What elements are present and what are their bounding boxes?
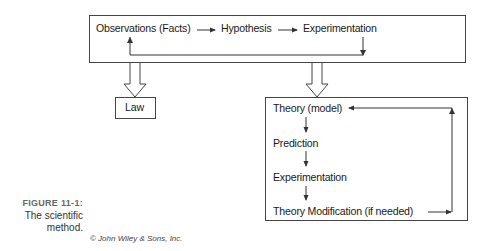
label-theory-modification: Theory Modification (if needed) [273,205,413,217]
label-experimentation-top: Experimentation [303,22,377,34]
hollow-arrow-to-theory [306,63,328,97]
label-prediction: Prediction [273,137,318,149]
figure-label: FIGURE 11-1: [22,198,83,208]
hollow-arrow-to-law [124,63,146,97]
caption-line-1: The scientific [13,210,83,222]
label-experimentation-theory: Experimentation [273,171,347,183]
caption-line-2: method. [13,222,83,234]
label-law: Law [125,101,144,113]
label-observations: Observations (Facts) [96,22,191,34]
label-hypothesis: Hypothesis [221,22,271,34]
copyright-credit: © John Wiley & Sons, Inc. [90,234,183,243]
label-theory: Theory (model) [273,102,342,114]
arrow-feedback-loop [130,37,363,55]
figure-caption: The scientific method. [13,210,83,234]
